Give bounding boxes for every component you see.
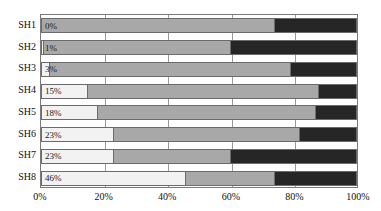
x-axis: 0%20%40%60%80%100% (0, 190, 381, 210)
y-axis-tick-sh8: SH8 (0, 172, 36, 182)
x-axis-tick-100: 100% (346, 192, 369, 202)
y-axis: SH1SH2SH3SH4SH5SH6SH7SH8 (0, 14, 36, 188)
bar-segment-series-1: 46% (41, 171, 186, 186)
bar-row: 15% (41, 84, 357, 99)
bar-value-label: 15% (45, 87, 62, 96)
bar-segment-series-3 (275, 18, 357, 33)
bar-segment-series-2 (50, 62, 290, 77)
x-axis-tick-40: 40% (158, 192, 176, 202)
bar-segment-series-2 (98, 105, 316, 120)
bar-segment-series-1: 23% (41, 149, 114, 164)
stacked-bar-chart: SH1SH2SH3SH4SH5SH6SH7SH8 0%1%3%15%18%23%… (0, 0, 381, 211)
x-axis-tick-60: 60% (222, 192, 240, 202)
x-axis-tick-80: 80% (285, 192, 303, 202)
bar-value-label: 18% (45, 108, 62, 117)
bar-value-label: 23% (45, 152, 62, 161)
bar-segment-series-3 (291, 62, 357, 77)
x-axis-tick-0: 0% (33, 192, 46, 202)
bar-row: 3% (41, 62, 357, 77)
bar-row: 23% (41, 127, 357, 142)
bar-segment-series-3 (316, 105, 357, 120)
bar-row: 46% (41, 171, 357, 186)
bar-segment-series-1: 23% (41, 127, 114, 142)
bar-row: 18% (41, 105, 357, 120)
bar-value-label: 23% (45, 130, 62, 139)
y-axis-tick-sh4: SH4 (0, 85, 36, 95)
bar-value-label: 46% (45, 174, 62, 183)
bars-layer: 0%1%3%15%18%23%23%46% (41, 15, 357, 187)
bar-segment-series-3 (275, 171, 357, 186)
bar-value-label: 0% (45, 21, 57, 30)
bar-segment-series-2 (42, 18, 275, 33)
bar-segment-series-2 (44, 40, 230, 55)
bar-value-label: 3% (45, 65, 57, 74)
bar-segment-series-1: 3% (41, 62, 50, 77)
bar-segment-series-2 (114, 149, 231, 164)
y-axis-tick-sh6: SH6 (0, 129, 36, 139)
y-axis-tick-sh1: SH1 (0, 20, 36, 30)
bar-row: 1% (41, 40, 357, 55)
bar-segment-series-2 (114, 127, 300, 142)
bar-row: 23% (41, 149, 357, 164)
bar-segment-series-3 (231, 40, 357, 55)
y-axis-tick-sh7: SH7 (0, 150, 36, 160)
plot-area: 0%1%3%15%18%23%23%46% (40, 14, 358, 188)
bar-segment-series-2 (186, 171, 274, 186)
bar-segment-series-3 (300, 127, 357, 142)
bar-segment-series-3 (319, 84, 357, 99)
y-axis-tick-sh2: SH2 (0, 42, 36, 52)
bar-segment-series-1: 15% (41, 84, 88, 99)
y-axis-tick-sh5: SH5 (0, 107, 36, 117)
y-axis-tick-sh3: SH3 (0, 63, 36, 73)
bar-row: 0% (41, 18, 357, 33)
bar-value-label: 1% (45, 43, 57, 52)
bar-segment-series-2 (88, 84, 319, 99)
x-axis-tick-20: 20% (94, 192, 112, 202)
bar-segment-series-1: 18% (41, 105, 98, 120)
bar-segment-series-3 (231, 149, 357, 164)
